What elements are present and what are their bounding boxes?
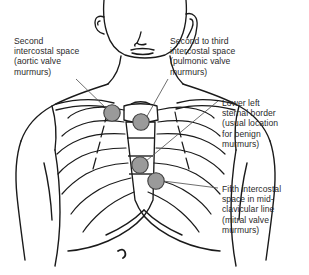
label-aortic-valve-area: Second intercostal space (aortic valve m… [14, 36, 114, 77]
navel-mark [118, 250, 125, 258]
rib-cage-right [148, 107, 225, 232]
aortic-area-marker [104, 105, 120, 121]
label-mitral-valve-area: Fifth intercostal space in mid- clavicul… [222, 184, 309, 235]
pulmonic-area-marker [133, 114, 149, 130]
leader-lines [76, 79, 218, 188]
auscultation-markers [104, 105, 164, 189]
label-lower-left-sternal-border: Lower left sternal border (usual locatio… [222, 98, 308, 149]
label-pulmonic-valve-area: Second to third intercostal space (pulmo… [170, 36, 282, 77]
costal-margin [68, 210, 220, 251]
tricuspid-area-marker [132, 157, 148, 173]
rib-cage-left [57, 107, 134, 232]
mitral-area-marker [148, 173, 164, 189]
clavicles [56, 100, 235, 110]
